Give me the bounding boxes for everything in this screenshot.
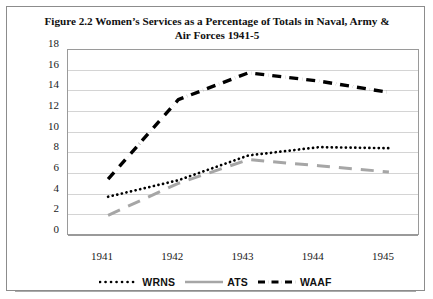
legend-label-ats: ATS [227,276,248,288]
x-axis-label-1944: 1944 [283,250,343,262]
gridline-8 [68,152,418,153]
chart-legend: WRNS ATS WAAF [7,273,424,291]
y-axis-label-6: 6 [29,161,59,173]
y-axis-label-8: 8 [29,140,59,152]
legend-item-waaf[interactable]: WAAF [257,276,332,288]
gridline-10 [68,132,418,133]
legend-divider [15,291,416,292]
legend-label-wrns: WRNS [142,276,175,288]
y-axis-label-4: 4 [29,182,59,194]
y-axis-label-14: 14 [29,78,59,90]
gridline-16 [68,70,418,71]
y-axis-label-18: 18 [29,37,59,49]
gridline-4 [68,194,418,195]
y-axis-label-10: 10 [29,120,59,132]
gridline-6 [68,173,418,174]
solid-gray-line-swatch [184,277,224,287]
dotted-line-swatch [99,277,139,287]
figure-container: Figure 2.2 Women’s Services as a Percent… [6,6,425,291]
gridline-12 [68,111,418,112]
gridline-2 [68,214,418,215]
x-axis-label-1945: 1945 [353,250,413,262]
legend-item-wrns[interactable]: WRNS [99,276,175,288]
chart-title: Figure 2.2 Women’s Services as a Percent… [37,14,397,42]
x-axis-label-1943: 1943 [213,250,273,262]
legend-label-waaf: WAAF [300,276,332,288]
gridline-18 [68,49,418,50]
plot-area [67,49,419,235]
y-axis-label-16: 16 [29,58,59,70]
x-axis-label-1941: 1941 [72,250,132,262]
legend-item-ats[interactable]: ATS [184,276,248,288]
dash-dot-line-swatch [257,277,297,287]
y-axis-label-12: 12 [29,99,59,111]
y-axis-label-0: 0 [29,223,59,235]
gridline-14 [68,90,418,91]
y-axis-label-2: 2 [29,202,59,214]
gridline-0 [68,235,418,236]
x-axis-label-1942: 1942 [142,250,202,262]
